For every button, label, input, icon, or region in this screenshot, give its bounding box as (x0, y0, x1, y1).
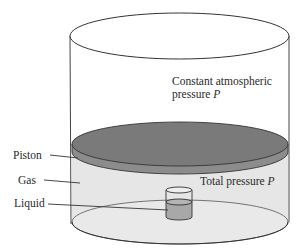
piston-label: Piston (13, 149, 42, 162)
beaker (166, 187, 192, 220)
atmospheric-pressure-line2: pressure P (172, 88, 272, 101)
cylinder-diagram (0, 0, 301, 252)
liquid-label: Liquid (14, 197, 45, 210)
piston-top (72, 122, 288, 166)
atmospheric-pressure-label: Constant atmospheric pressure P (172, 75, 272, 101)
cylinder-left-wall (70, 36, 71, 224)
atmospheric-pressure-line1: Constant atmospheric (172, 75, 272, 88)
gas-label: Gas (18, 174, 36, 187)
cylinder-top-rim (70, 13, 289, 59)
total-pressure-label: Total pressure P (200, 175, 275, 188)
